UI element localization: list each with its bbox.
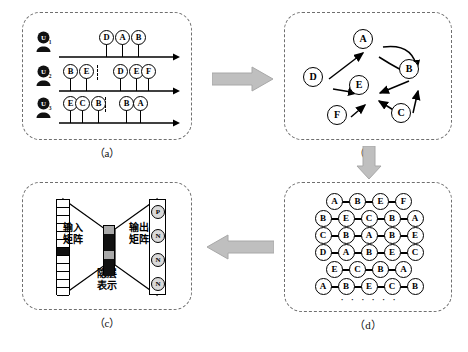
svg-text:U: U xyxy=(41,68,46,76)
user-icon: U3 xyxy=(35,97,55,119)
walk-node: A xyxy=(326,193,343,210)
session-divider xyxy=(97,65,98,80)
graph-node-c: C xyxy=(391,103,411,123)
panel-c-skipgram: 输入 矩阵 输出 矩阵 隐层 表示 PNNN xyxy=(22,182,192,310)
graph-node-e: E xyxy=(349,75,369,95)
session-item: A xyxy=(115,30,130,45)
panel-d-walks: ABEFBECBACBABEDABECECBAABECB · · · · · · xyxy=(284,182,452,312)
arrow-left-d-to-c xyxy=(206,234,274,260)
input-vector xyxy=(56,199,70,295)
walk-node: E xyxy=(384,244,401,261)
svg-text:3: 3 xyxy=(49,105,52,111)
walk-node: B xyxy=(315,210,332,227)
session-item: B xyxy=(119,96,134,111)
hidden-vector xyxy=(103,225,115,275)
caption-d: （d） xyxy=(328,316,408,332)
output-matrix-label-line2: 矩阵 xyxy=(129,234,149,245)
walk-node: A xyxy=(407,210,424,227)
hidden-cell xyxy=(104,259,114,267)
walk-node: D xyxy=(315,244,332,261)
arrow-right-a-to-b xyxy=(212,66,274,92)
walk-node: A xyxy=(338,244,355,261)
hidden-cell xyxy=(104,251,114,259)
hidden-cell xyxy=(104,243,114,251)
input-cell xyxy=(57,288,69,296)
walk-node: E xyxy=(338,210,355,227)
graph-node-d: D xyxy=(303,67,323,87)
session-item: F xyxy=(141,64,156,79)
input-matrix-label-line2: 矩阵 xyxy=(63,234,83,245)
session-item: B xyxy=(63,64,78,79)
walk-node: B xyxy=(338,227,355,244)
input-cell-active xyxy=(57,248,69,256)
output-node: N xyxy=(151,253,165,267)
input-cell xyxy=(57,280,69,288)
session-row: U3ECBBA xyxy=(35,93,183,129)
session-item: A xyxy=(133,96,148,111)
graph-node-b: B xyxy=(399,59,419,79)
graph-node-a: A xyxy=(353,29,373,49)
walk-node: B xyxy=(349,193,366,210)
input-cell xyxy=(57,208,69,216)
user-icon: U1 xyxy=(35,31,55,53)
walk-node: E xyxy=(372,193,389,210)
panel-b-graph: ABDEFC xyxy=(284,12,452,140)
input-cell xyxy=(57,200,69,208)
hidden-cell xyxy=(104,234,114,242)
walk-node: A xyxy=(315,278,332,295)
walk-node: B xyxy=(372,261,389,278)
session-item: E xyxy=(79,64,94,79)
svg-text:U: U xyxy=(41,34,46,42)
walk-node: C xyxy=(361,210,378,227)
session-item: C xyxy=(75,96,90,111)
hidden-cell xyxy=(104,268,114,276)
output-node: N xyxy=(151,229,165,243)
session-row: U2BEDEF xyxy=(35,61,183,97)
input-cell xyxy=(57,264,69,272)
walk-node: B xyxy=(407,278,424,295)
walk-node: C xyxy=(349,261,366,278)
time-axis xyxy=(59,114,181,123)
walk-node: E xyxy=(326,261,343,278)
user-icon: U2 xyxy=(35,65,55,87)
svg-text:1: 1 xyxy=(49,39,52,45)
walk-node: B xyxy=(338,278,355,295)
arrow-down-b-to-d xyxy=(356,146,382,180)
session-item: B xyxy=(131,30,146,45)
caption-a: （a） xyxy=(67,144,147,160)
walk-node: B xyxy=(384,210,401,227)
walk-node: C xyxy=(407,244,424,261)
time-axis xyxy=(59,48,181,57)
output-node: P xyxy=(151,205,165,219)
walk-node: B xyxy=(361,244,378,261)
input-cell xyxy=(57,256,69,264)
hidden-cell xyxy=(104,226,114,234)
session-item: D xyxy=(99,30,114,45)
walk-node: B xyxy=(384,227,401,244)
walk-node: F xyxy=(395,193,412,210)
input-cell xyxy=(57,272,69,280)
session-item: D xyxy=(113,64,128,79)
output-matrix-label-line1: 输出 xyxy=(129,222,149,233)
session-item: B xyxy=(91,96,106,111)
walk-node: C xyxy=(315,227,332,244)
walk-node: E xyxy=(361,278,378,295)
panel-a-sessions: U1DAB U2BEDEF U3ECBBA xyxy=(22,12,192,140)
output-vector: PNNN xyxy=(149,199,166,295)
session-row: U1DAB xyxy=(35,27,183,63)
svg-text:2: 2 xyxy=(49,73,52,79)
svg-text:U: U xyxy=(41,100,46,108)
input-matrix-label: 输入 矩阵 xyxy=(56,222,90,246)
input-matrix-label-line1: 输入 xyxy=(63,222,83,233)
graph-node-f: F xyxy=(327,105,347,125)
graph-container: ABDEFC xyxy=(285,13,453,141)
walk-node: A xyxy=(395,261,412,278)
walk-node: A xyxy=(361,227,378,244)
output-node: N xyxy=(151,277,165,291)
walk-node: C xyxy=(384,278,401,295)
walk-node: E xyxy=(407,227,424,244)
hidden-label-line2: 表示 xyxy=(97,280,117,291)
caption-c: （c） xyxy=(67,314,147,330)
